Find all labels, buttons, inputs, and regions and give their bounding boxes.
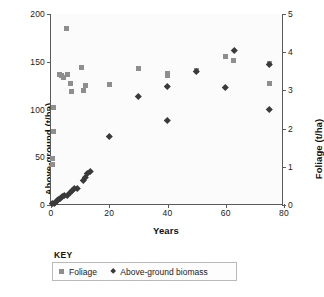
data-point-diamond [106, 133, 112, 139]
y-axis-right-tick [282, 90, 286, 91]
y-axis-right-tick [282, 129, 286, 130]
data-point-square [83, 83, 88, 88]
y-axis-left-tick [47, 62, 51, 63]
y-axis-right-tick [282, 14, 286, 15]
legend-entry: Above-ground biomass [111, 267, 208, 277]
y-axis-right-tick-label: 4 [288, 47, 293, 57]
x-axis-tick-label: 60 [221, 208, 231, 218]
data-point-square [64, 26, 69, 31]
data-point-diamond [231, 47, 237, 53]
data-point-square [69, 89, 74, 94]
data-point-square [81, 88, 86, 93]
legend-box: FoliageAbove-ground biomass [52, 262, 237, 281]
data-point-diamond [266, 106, 272, 112]
data-point-square [165, 73, 170, 78]
data-point-square [136, 66, 141, 71]
y-axis-right-tick-label: 5 [288, 9, 293, 19]
data-point-square [223, 54, 228, 59]
y-axis-right-tick [282, 52, 286, 53]
legend: KEY FoliageAbove-ground biomass [52, 250, 237, 281]
legend-title: KEY [52, 250, 237, 260]
y-axis-left-tick-label: 150 [30, 57, 45, 67]
data-point-square [51, 129, 56, 134]
data-point-square [50, 156, 55, 161]
y-axis-left-tick-label: 200 [30, 9, 45, 19]
data-point-diamond [74, 185, 80, 191]
data-point-square [68, 81, 73, 86]
y-axis-left-tick-label: 100 [30, 105, 45, 115]
x-axis-tick-label: 40 [163, 208, 173, 218]
data-point-diamond [223, 84, 229, 90]
x-axis-tick-label: 80 [279, 208, 289, 218]
y-axis-right-tick [282, 167, 286, 168]
data-point-square [231, 58, 236, 63]
x-axis-tick-label: 0 [49, 208, 54, 218]
legend-entry-label: Foliage [69, 267, 97, 277]
legend-entry: Foliage [59, 267, 97, 277]
x-axis-tick-label: 20 [104, 208, 114, 218]
x-axis-title: Years [153, 225, 179, 236]
data-point-square [51, 105, 56, 110]
data-point-diamond [135, 93, 141, 99]
data-point-diamond [164, 83, 170, 89]
y-axis-left-tick-label: 0 [40, 200, 45, 210]
y-axis-right-tick-label: 2 [288, 124, 293, 134]
data-point-square [65, 72, 70, 77]
y-axis-right-tick-label: 3 [288, 85, 293, 95]
legend-square-icon [59, 269, 64, 274]
data-point-diamond [164, 117, 170, 123]
data-point-square [79, 65, 84, 70]
data-point-square [50, 162, 55, 167]
legend-diamond-icon [110, 268, 116, 274]
plot-area: 050100150200 012345 020406080 [50, 14, 283, 205]
y-axis-left-tick [47, 14, 51, 15]
y-axis-right-title: Foliage (t/ha) [313, 118, 324, 179]
data-point-square [107, 82, 112, 87]
data-point-square [267, 81, 272, 86]
y-axis-left-tick-label: 50 [35, 152, 45, 162]
legend-entry-label: Above-ground biomass [120, 267, 207, 277]
y-axis-right-tick-label: 1 [288, 162, 293, 172]
